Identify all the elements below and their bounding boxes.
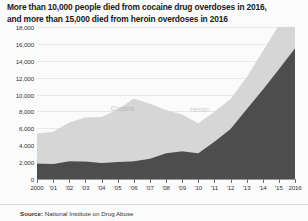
footer-divider [0, 204, 308, 205]
page-title: More than 10,000 people died from cocain… [7, 2, 301, 25]
source-text: National Institute on Drug Abuse [45, 210, 134, 217]
x-tick-mark [231, 179, 232, 183]
x-tick-mark [118, 179, 119, 183]
y-tick-label: 16,000 [16, 40, 34, 47]
y-tick-label: 12,000 [16, 74, 34, 81]
stacked-area-series [37, 27, 295, 179]
x-tick-label: '13 [243, 184, 251, 191]
x-tick-label: '07 [146, 184, 154, 191]
series-label-heroin: Heroin [190, 106, 209, 113]
x-tick-mark [53, 179, 54, 183]
x-tick-mark [134, 179, 135, 183]
x-tick-mark [247, 179, 248, 183]
x-tick-label: '15 [275, 184, 283, 191]
x-tick-label: '10 [194, 184, 202, 191]
y-tick-label: 4,000 [19, 142, 34, 149]
title-line-1: More than 10,000 people died from cocain… [7, 2, 301, 14]
chart-page: More than 10,000 people died from cocain… [0, 0, 308, 221]
x-tick-label: '05 [114, 184, 122, 191]
source-prefix: Source: [20, 210, 43, 217]
x-tick-mark [150, 179, 151, 183]
x-tick-label: 2000 [30, 184, 43, 191]
y-tick-label: 10,000 [16, 91, 34, 98]
plot-region: Cocaine Heroin [37, 27, 295, 179]
x-tick-mark [85, 179, 86, 183]
x-tick-mark [166, 179, 167, 183]
x-tick-label: 2016 [288, 184, 301, 191]
y-tick-label: 2,000 [19, 159, 34, 166]
y-tick-label: 14,000 [16, 57, 34, 64]
x-tick-label: '11 [211, 184, 218, 191]
x-tick-label: '06 [130, 184, 138, 191]
x-tick-mark [279, 179, 280, 183]
chart-area: 02,0004,0006,0008,00010,00012,00014,0001… [0, 27, 308, 199]
title-line-2: and more than 15,000 died from heroin ov… [7, 14, 301, 26]
x-tick-mark [198, 179, 199, 183]
y-tick-label: 0 [31, 176, 34, 183]
y-tick-label: 6,000 [19, 125, 34, 132]
x-tick-mark [263, 179, 264, 183]
x-tick-label: '01 [49, 184, 57, 191]
x-tick-label: '09 [178, 184, 186, 191]
x-axis-labels: 2000'01'02'03'04'05'06'07'08'09'10'11'12… [37, 179, 295, 199]
x-tick-mark [37, 179, 38, 183]
y-axis-labels: 02,0004,0006,0008,00010,00012,00014,0001… [0, 27, 36, 179]
x-tick-label: '12 [227, 184, 235, 191]
x-tick-mark [69, 179, 70, 183]
source-note: Source: National Institute on Drug Abuse [20, 210, 134, 217]
x-tick-label: '08 [162, 184, 170, 191]
x-tick-mark [214, 179, 215, 183]
x-tick-mark [102, 179, 103, 183]
x-tick-label: '14 [259, 184, 267, 191]
x-tick-label: '04 [98, 184, 106, 191]
x-tick-label: '02 [65, 184, 73, 191]
x-tick-label: '03 [82, 184, 90, 191]
series-label-cocaine: Cocaine [111, 105, 134, 112]
y-tick-label: 8,000 [19, 108, 34, 115]
x-tick-mark [182, 179, 183, 183]
x-tick-mark [295, 179, 296, 183]
y-tick-label: 18,000 [16, 24, 34, 31]
